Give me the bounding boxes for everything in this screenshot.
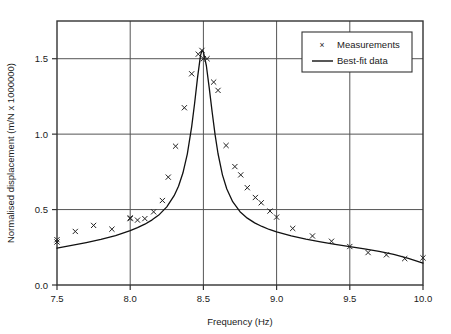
y-tick-label: 1.5 bbox=[35, 53, 48, 64]
resonance-response-chart: 7.58.08.59.09.510.0 0.00.51.01.5 Frequen… bbox=[0, 0, 451, 334]
x-tick-label: 8.0 bbox=[124, 293, 137, 304]
legend-box bbox=[302, 32, 412, 72]
x-tick-label: 9.0 bbox=[270, 293, 283, 304]
x-tick-label: 9.5 bbox=[343, 293, 356, 304]
y-axis-title: Normalised displacement (m/N x 1000000) bbox=[5, 63, 16, 243]
y-tick-label: 0.5 bbox=[35, 204, 48, 215]
y-tick-label: 0.0 bbox=[35, 280, 48, 291]
chart-figure: 7.58.08.59.09.510.0 0.00.51.01.5 Frequen… bbox=[0, 0, 451, 334]
x-axis-title: Frequency (Hz) bbox=[207, 316, 272, 327]
legend-label-measurements: Measurements bbox=[337, 39, 400, 50]
legend-label-best-fit: Best-fit data bbox=[337, 55, 388, 66]
x-tick-label: 7.5 bbox=[50, 293, 63, 304]
legend-marker-x-icon: × bbox=[320, 40, 325, 50]
x-tick-label: 8.5 bbox=[197, 293, 210, 304]
x-tick-label: 10.0 bbox=[414, 293, 433, 304]
chart-legend: × Measurements Best-fit data bbox=[302, 32, 412, 72]
y-tick-label: 1.0 bbox=[35, 129, 48, 140]
